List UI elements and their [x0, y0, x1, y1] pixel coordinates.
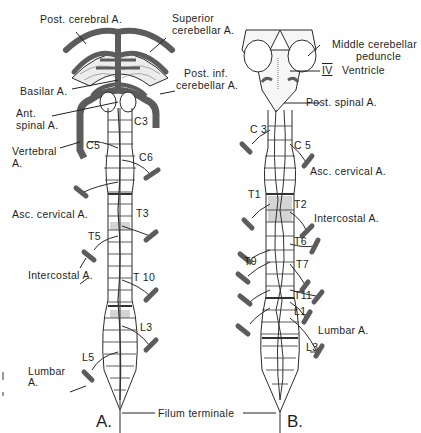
segment-b-l3: L3 [306, 342, 318, 353]
segment-a-t3: T3 [136, 208, 149, 219]
label-post-inf-cerebellar-artery-line2: cerebellar A. [176, 80, 238, 91]
segment-b-t7: T7 [296, 259, 309, 270]
label-post-cerebral-artery: Post. cerebral A. [40, 14, 122, 25]
label-intercostal-artery-b: Intercostal A. [314, 213, 379, 224]
segment-b-l1: L1 [294, 306, 306, 317]
label-ant-spinal-artery-line2: spinal A. [16, 120, 58, 131]
label-filum-terminale: Filum terminale [158, 408, 234, 419]
segment-b-c5: C 5 [294, 140, 311, 151]
label-basilar-artery: Basilar A. [20, 86, 67, 97]
spinal-cord-arterial-supply-figure: Post. cerebral A. Superior cerebellar A.… [0, 0, 421, 433]
segment-a-t10: T 10 [133, 272, 155, 283]
label-vertebral-artery-line2: A. [12, 158, 23, 169]
panel-b-letter: B. [287, 413, 303, 431]
segment-b-t9: T9 [244, 256, 257, 267]
panel-a-letter: A. [96, 413, 112, 431]
label-ant-spinal-artery-line1: Ant. [16, 108, 36, 119]
label-asc-cervical-artery-b: Asc. cervical A. [310, 166, 386, 177]
panel-a-radicular-arteries [76, 142, 158, 380]
panel-b-spinal-cord [261, 110, 300, 433]
label-fourth-ventricle: Ventricle [342, 65, 385, 76]
label-post-inf-cerebellar-artery-line1: Post. inf. [184, 68, 228, 79]
segment-b-c3: C 3 [250, 124, 267, 135]
label-superior-cerebellar-artery-line2: cerebellar A. [172, 25, 234, 36]
label-asc-cervical-artery-a: Asc. cervical A. [12, 209, 88, 220]
label-superior-cerebellar-artery-line1: Superior [172, 13, 214, 24]
segment-a-l3: L3 [140, 322, 152, 333]
label-middle-cerebellar-peduncle-line2: peduncle [356, 51, 401, 62]
segment-a-c3: C3 [134, 116, 148, 127]
label-fourth-ventricle-numeral: IV [322, 65, 333, 76]
label-middle-cerebellar-peduncle-line1: Middle cerebellar [332, 39, 417, 50]
segment-a-t5: T5 [88, 231, 101, 242]
segment-a-c5: C5 [86, 140, 100, 151]
panel-a-brainstem [66, 31, 172, 158]
segment-b-t6: T6 [294, 236, 307, 247]
label-intercostal-artery-a: Intercostal A. [28, 270, 93, 281]
segment-a-c6: C6 [139, 152, 153, 163]
label-lumbar-artery-a-line2: A. [28, 377, 39, 388]
segment-b-t11: T11 [294, 290, 312, 301]
label-vertebral-artery-line1: Vertebral [12, 146, 57, 157]
segment-b-t2: T2 [294, 199, 307, 210]
segment-a-l5: L5 [82, 352, 94, 363]
label-post-spinal-artery: Post. spinal A. [306, 97, 377, 108]
segment-b-t1: T1 [248, 189, 261, 200]
label-lumbar-artery-b: Lumbar A. [318, 325, 369, 336]
